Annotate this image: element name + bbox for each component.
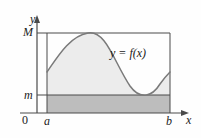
function-label: y = f(x) [110,47,146,59]
extreme-value-theorem-figure: y M m 0 a b x y = f(x) [0,0,201,138]
region-below-min [47,95,170,113]
min-value-label: m [24,89,33,101]
origin-label: 0 [22,114,28,126]
max-value-label: M [23,26,33,38]
x-axis-label: x [186,114,191,126]
right-bound-label: b [166,115,172,127]
left-bound-label: a [44,115,50,127]
y-axis-label: y [30,13,35,25]
